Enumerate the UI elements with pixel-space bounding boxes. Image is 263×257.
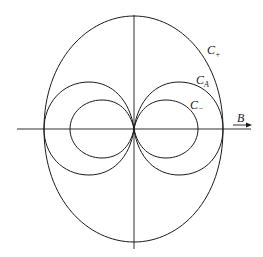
svg-text:−: − [198,104,203,113]
curve-c-a-right-lobe [134,82,223,175]
label-c-minus: C − [190,98,203,113]
curve-c-a-left-lobe [44,82,134,175]
svg-text:A: A [203,80,209,89]
label-b: B [237,111,245,125]
diagram-canvas: C + C A C − B [0,0,263,257]
svg-text:+: + [215,50,220,59]
label-c-a: C A [196,73,209,89]
label-c-plus: C + [207,43,220,59]
